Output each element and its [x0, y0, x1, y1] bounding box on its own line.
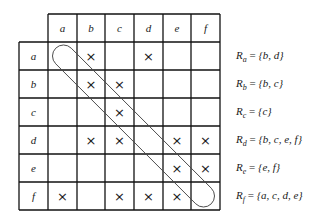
equals-sign: = — [249, 105, 255, 117]
cross-mark-f-d: × — [134, 182, 163, 210]
relation-subscript: d — [243, 139, 247, 148]
relation-set: {e, f} — [258, 161, 280, 173]
column-header-e: e — [163, 14, 191, 42]
equals-sign: = — [249, 77, 255, 89]
relation-subscript: b — [243, 83, 247, 92]
column-header-d: d — [134, 14, 163, 42]
column-header-f: f — [191, 14, 220, 42]
relation-f: Rf = {a, c, d, e} — [236, 189, 303, 204]
row-header-b: b — [19, 70, 48, 98]
row-header-f: f — [19, 182, 48, 210]
cross-mark-a-d: × — [134, 42, 163, 70]
column-header-c: c — [105, 14, 134, 42]
relation-d: Rd = {b, c, e, f} — [236, 133, 302, 148]
cross-mark-b-c: × — [105, 70, 134, 98]
row-header-e: e — [19, 154, 48, 182]
cross-mark-d-c: × — [105, 126, 134, 154]
cross-mark-f-e: × — [163, 182, 191, 210]
cross-mark-f-c: × — [105, 182, 134, 210]
relation-set: {c} — [258, 105, 272, 117]
equals-sign: = — [249, 133, 255, 145]
relation-set: {a, c, d, e} — [257, 189, 303, 201]
cross-mark-c-c: × — [105, 98, 134, 126]
cross-mark-f-a: × — [48, 182, 77, 210]
relation-prefix: R — [236, 161, 243, 173]
cross-mark-d-b: × — [77, 126, 105, 154]
relation-prefix: R — [236, 105, 243, 117]
column-header-a: a — [48, 14, 77, 42]
relation-set: {b, d} — [258, 49, 283, 61]
cross-mark-a-b: × — [77, 42, 105, 70]
cross-mark-b-b: × — [77, 70, 105, 98]
cross-mark-d-e: × — [163, 126, 191, 154]
equals-sign: = — [249, 49, 255, 61]
equals-sign: = — [249, 161, 255, 173]
relation-subscript: e — [243, 167, 247, 176]
relation-prefix: R — [236, 189, 243, 201]
cross-mark-e-e: × — [163, 154, 191, 182]
row-header-c: c — [19, 98, 48, 126]
relation-a: Ra = {b, d} — [236, 49, 284, 64]
relation-set: {b, c} — [258, 77, 283, 89]
relation-subscript: c — [243, 111, 247, 120]
row-header-d: d — [19, 126, 48, 154]
relation-prefix: R — [236, 49, 243, 61]
relation-b: Rb = {b, c} — [236, 77, 283, 92]
relation-e: Re = {e, f} — [236, 161, 280, 176]
equals-sign: = — [248, 189, 254, 201]
row-header-a: a — [19, 42, 48, 70]
cross-mark-e-f: × — [191, 154, 220, 182]
relation-set: {b, c, e, f} — [258, 133, 302, 145]
relation-c: Rc = {c} — [236, 105, 272, 120]
relation-prefix: R — [236, 77, 243, 89]
relation-prefix: R — [236, 133, 243, 145]
column-header-b: b — [77, 14, 105, 42]
relation-subscript: a — [243, 55, 247, 64]
relation-subscript: f — [243, 195, 245, 204]
cross-mark-d-f: × — [191, 126, 220, 154]
